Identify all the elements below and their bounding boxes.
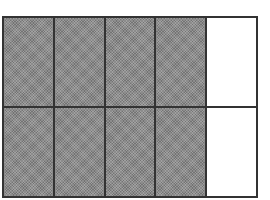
- shaded-cell: [156, 108, 205, 196]
- unshaded-cell: [207, 108, 256, 196]
- shaded-cell: [55, 108, 104, 196]
- shaded-cell: [106, 108, 155, 196]
- shaded-cell: [4, 108, 53, 196]
- shaded-cell: [55, 18, 104, 106]
- diagram-canvas: 8/10: [0, 0, 270, 200]
- shaded-cell: [4, 18, 53, 106]
- shaded-cell: [156, 18, 205, 106]
- fraction-grid: [2, 16, 258, 198]
- unshaded-cell: [207, 18, 256, 106]
- shaded-cell: [106, 18, 155, 106]
- fraction-label: 8/10: [0, 0, 1, 1]
